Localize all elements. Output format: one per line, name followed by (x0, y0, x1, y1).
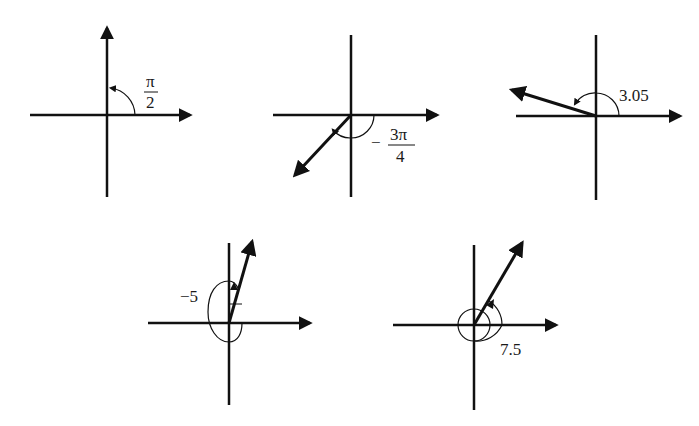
terminal-side-vector (474, 243, 522, 325)
angle-label: −5 (180, 287, 198, 306)
terminal-side-vector (295, 115, 351, 175)
diagram-7-5: 7.5 (393, 243, 556, 410)
diagram-neg-5: −5 (148, 242, 310, 405)
terminal-side-vector (229, 242, 252, 323)
angle-label-numerator: π (146, 72, 155, 91)
angle-label-numerator: 3π (390, 125, 408, 144)
angle-arc (474, 301, 502, 341)
angle-label-denominator: 2 (146, 93, 155, 112)
angle-label: 7.5 (500, 340, 521, 359)
angle-label-denominator: 4 (396, 147, 405, 166)
diagram-3-05: 3.05 (512, 35, 680, 200)
diagram-pi-over-2: π 2 (30, 28, 190, 197)
diagram-neg-3pi-over-4: − 3π 4 (273, 35, 437, 197)
angle-arc (111, 88, 135, 115)
angle-label: 3.05 (619, 86, 649, 105)
angle-diagrams-canvas: π 2 − 3π 4 3.05 −5 7.5 (0, 0, 699, 426)
angle-label-sign: − (371, 133, 381, 152)
terminal-side-vector (512, 90, 596, 116)
